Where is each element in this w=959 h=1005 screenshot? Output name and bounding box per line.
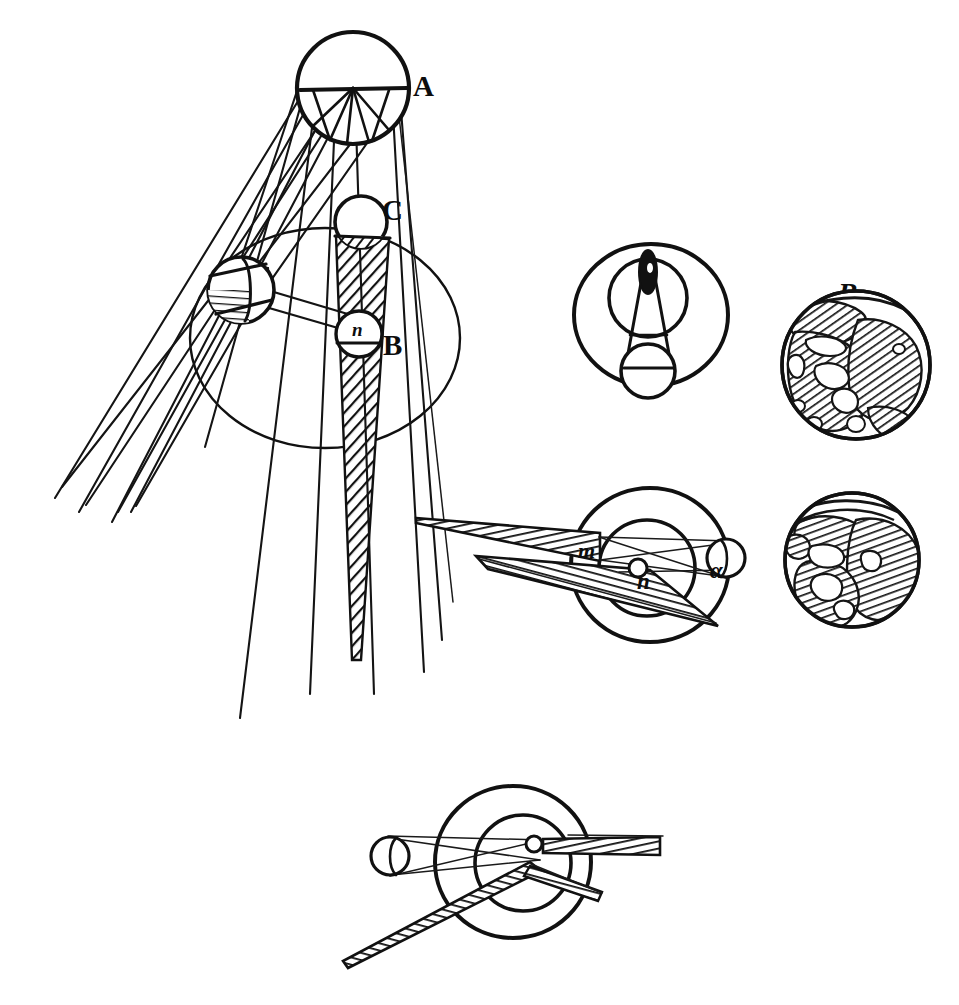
hatched-moon-left <box>205 257 274 330</box>
main-eclipse-diagram: A C n B <box>55 32 460 718</box>
top-middle-diagram <box>574 244 728 398</box>
moon-circle <box>621 344 675 398</box>
globe-lower <box>785 493 921 629</box>
label-moon-C: C <box>382 194 403 226</box>
eclipse-diagram-figure: A C n B <box>0 0 959 1005</box>
earth-blob-highlight <box>647 263 653 273</box>
node-dot <box>526 836 542 852</box>
globe-upper: B <box>782 277 930 440</box>
sun-circle-A <box>297 32 409 144</box>
hatched-cone-left <box>416 518 600 561</box>
label-node-n-main: n <box>352 319 363 340</box>
earth-blob <box>639 250 657 294</box>
hatched-cone-right <box>543 837 660 855</box>
label-point-m: m <box>578 538 595 563</box>
hatched-cone-lower-left <box>343 862 541 968</box>
middle-right-diagram: m n α <box>416 488 745 642</box>
label-point-n: n <box>637 569 650 594</box>
label-point-alpha: α <box>710 558 724 583</box>
label-earth-B: B <box>383 329 402 361</box>
bottom-diagram <box>343 786 663 968</box>
engraving-plate: A C n B <box>0 0 959 1005</box>
label-sun-A: A <box>413 70 434 102</box>
